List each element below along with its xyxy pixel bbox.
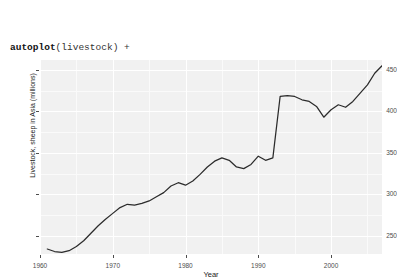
y-axis-tick-label: 450 (363, 66, 397, 73)
line-series-livestock (47, 66, 382, 253)
x-axis-tick-mark (331, 255, 332, 258)
x-axis-tick-label: 1970 (93, 262, 133, 269)
y-axis-tick-mark (36, 194, 39, 195)
chart-panel (40, 60, 382, 254)
x-axis-tick-mark (258, 255, 259, 258)
y-axis-tick-mark (36, 111, 39, 112)
y-axis-tick-mark (36, 236, 39, 237)
x-axis-tick-label: 1980 (166, 262, 206, 269)
x-axis-tick-mark (186, 255, 187, 258)
y-axis-tick-label: 400 (363, 107, 397, 114)
y-axis-tick-label: 350 (363, 149, 397, 156)
code-snippet[interactable]: autoplot(livestock) + xlab("Year") + yla… (0, 0, 397, 52)
x-axis-tick-label: 1990 (238, 262, 278, 269)
y-axis-tick-label: 250 (363, 232, 397, 239)
chart-series-area (40, 60, 382, 254)
y-axis-tick-mark (36, 153, 39, 154)
x-axis-tick-label: 2000 (311, 262, 351, 269)
x-axis-tick-label: 1960 (20, 262, 60, 269)
x-axis-tick-mark (113, 255, 114, 258)
y-axis-tick-mark (36, 70, 39, 71)
x-axis-title: Year (40, 270, 382, 279)
y-axis-tick-label: 300 (363, 190, 397, 197)
x-axis-tick-mark (40, 255, 41, 258)
chart-plot: Livestock, sheep in Asia (millions) 4504… (0, 52, 397, 279)
y-axis-title: Livestock, sheep in Asia (millions) (29, 46, 36, 206)
